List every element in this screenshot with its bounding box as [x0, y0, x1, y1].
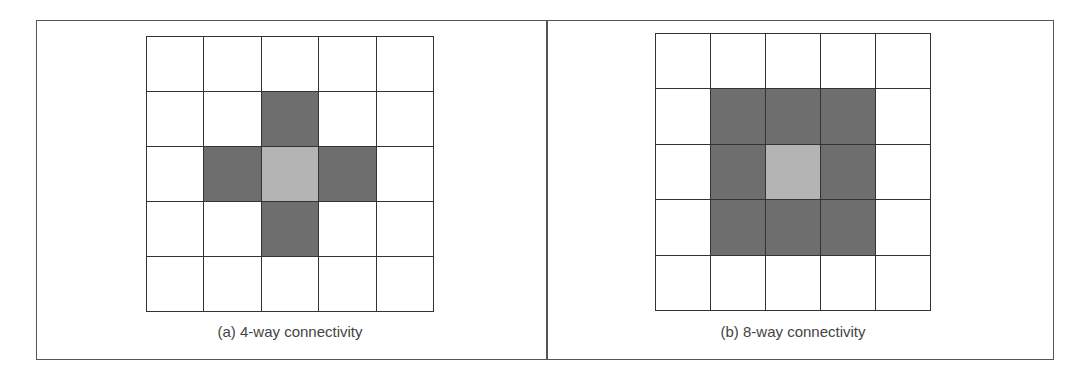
empty-pixel [204, 202, 261, 257]
empty-pixel [147, 147, 204, 202]
neighbor-pixel [262, 92, 319, 147]
empty-pixel [377, 202, 434, 257]
neighbor-pixel [262, 202, 319, 257]
empty-pixel [766, 256, 821, 311]
empty-pixel [377, 37, 434, 92]
empty-pixel [766, 34, 821, 89]
empty-pixel [656, 89, 711, 144]
empty-pixel [656, 200, 711, 255]
neighbor-pixel [711, 145, 766, 200]
empty-pixel [876, 145, 931, 200]
empty-pixel [876, 89, 931, 144]
empty-pixel [377, 92, 434, 147]
empty-pixel [876, 34, 931, 89]
empty-pixel [876, 200, 931, 255]
neighbor-pixel [821, 89, 876, 144]
empty-pixel [147, 92, 204, 147]
empty-pixel [377, 257, 434, 312]
center-pixel [262, 147, 319, 202]
empty-pixel [204, 92, 261, 147]
grid-4-way [146, 36, 434, 312]
neighbor-pixel [821, 145, 876, 200]
empty-pixel [147, 257, 204, 312]
empty-pixel [319, 257, 376, 312]
empty-pixel [147, 37, 204, 92]
caption-4-way: (a) 4-way connectivity [140, 323, 440, 340]
empty-pixel [656, 145, 711, 200]
empty-pixel [204, 37, 261, 92]
neighbor-pixel [766, 89, 821, 144]
empty-pixel [319, 92, 376, 147]
neighbor-pixel [319, 147, 376, 202]
empty-pixel [377, 147, 434, 202]
empty-pixel [204, 257, 261, 312]
empty-pixel [656, 256, 711, 311]
empty-pixel [821, 256, 876, 311]
caption-8-way: (b) 8-way connectivity [643, 323, 943, 340]
empty-pixel [821, 34, 876, 89]
center-pixel [766, 145, 821, 200]
empty-pixel [656, 34, 711, 89]
empty-pixel [147, 202, 204, 257]
empty-pixel [262, 37, 319, 92]
panel-divider [546, 20, 548, 360]
neighbor-pixel [711, 200, 766, 255]
empty-pixel [262, 257, 319, 312]
neighbor-pixel [766, 200, 821, 255]
neighbor-pixel [204, 147, 261, 202]
empty-pixel [711, 34, 766, 89]
grid-8-way [655, 33, 931, 311]
empty-pixel [319, 202, 376, 257]
neighbor-pixel [711, 89, 766, 144]
empty-pixel [711, 256, 766, 311]
neighbor-pixel [821, 200, 876, 255]
empty-pixel [319, 37, 376, 92]
empty-pixel [876, 256, 931, 311]
